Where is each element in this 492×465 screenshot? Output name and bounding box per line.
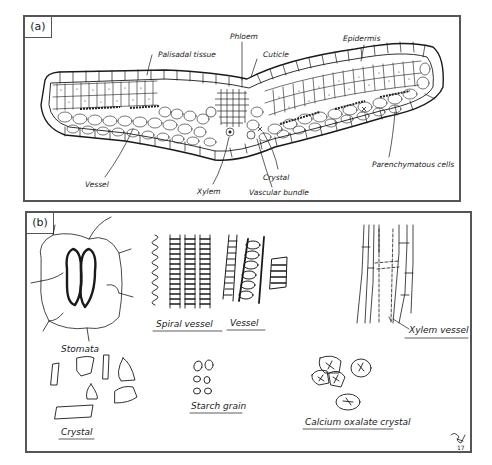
label-cuticle: Cuticle: [263, 50, 289, 59]
label-xylem: Xylem: [196, 187, 221, 196]
label-stomata: Stomata: [61, 344, 99, 354]
signature-number: 17: [457, 444, 465, 451]
label-vessel: Vessel: [85, 180, 110, 189]
label-epidermis: Epidermis: [343, 34, 380, 43]
spiral-vessel-drawing: [152, 235, 210, 308]
xylem-vessel-drawing: [357, 225, 413, 323]
crystal-drawing: [51, 355, 137, 419]
starch-grain-drawing: [193, 360, 213, 394]
label-vascular-bundle: Vascular bundle: [249, 188, 309, 197]
label-phloem: Phloem: [230, 32, 258, 41]
panel-b-powder-elements: (b) Stomata Spiral vessel: [25, 211, 472, 453]
signature-mark: [451, 433, 465, 443]
label-palisadal-tissue: Palisadal tissue: [158, 50, 216, 59]
label-starch-grain: Starch grain: [191, 401, 246, 411]
calcium-oxalate-crystal-drawing: [312, 356, 371, 410]
panel-a-leaf-section: (a): [23, 15, 461, 202]
leaf-cross-section-drawing: Palisadal tissue Phloem Cuticle Epidermi…: [25, 17, 459, 200]
powder-elements-drawing: Stomata Spiral vessel Vessel: [27, 213, 470, 451]
label-xylem-vessel: Xylem vessel: [408, 325, 469, 335]
label-crystal-b: Crystal: [61, 427, 93, 437]
label-calcium-oxalate-crystal: Calcium oxalate crystal: [305, 417, 411, 427]
label-vessel-b: Vessel: [230, 318, 259, 328]
vessel-drawing: [223, 235, 287, 303]
label-parenchymatous-cells: Parenchymatous cells: [372, 160, 454, 169]
label-spiral-vessel: Spiral vessel: [156, 319, 213, 329]
label-crystal: Crystal: [263, 173, 290, 182]
